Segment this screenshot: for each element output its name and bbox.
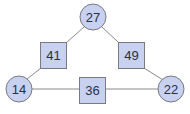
square-node-top-left: 41 [41, 43, 67, 69]
circle-node-right: 22 [158, 76, 184, 102]
edge-top-right-to-right [144, 68, 163, 80]
circle-node-left: 14 [6, 76, 32, 102]
square-node-bottom: 36 [80, 78, 106, 104]
node-label: 49 [124, 48, 138, 63]
number-triangle-diagram: 27 14 22 41 49 36 [0, 0, 190, 114]
node-label: 36 [85, 83, 99, 98]
node-label: 27 [86, 10, 100, 25]
square-node-top-right: 49 [119, 43, 145, 69]
edge-top-to-top-left [66, 27, 84, 43]
circle-node-top: 27 [80, 4, 106, 30]
edge-top-left-to-left [27, 68, 41, 79]
node-label: 41 [46, 48, 60, 63]
node-label: 14 [12, 82, 26, 97]
node-label: 22 [164, 82, 178, 97]
edge-top-to-top-right [102, 27, 119, 43]
